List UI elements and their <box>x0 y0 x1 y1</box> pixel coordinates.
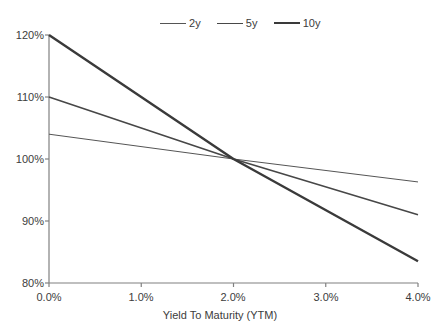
series-line-10y <box>49 35 418 261</box>
plot-area <box>0 0 440 334</box>
x-tick-0: 0.0% <box>19 292 79 303</box>
y-tick-90: 90% <box>4 216 44 227</box>
x-axis-title: Yield To Maturity (YTM) <box>0 309 440 321</box>
x-tick-1: 1.0% <box>111 292 171 303</box>
y-tick-80: 80% <box>4 278 44 289</box>
x-tick-4: 4.0% <box>388 292 440 303</box>
y-tick-100: 100% <box>4 154 44 165</box>
y-tick-110: 110% <box>4 92 44 103</box>
chart-container: 2y 5y 10y 120% 110% 100% 90% 80% 0.0% 1.… <box>0 0 440 334</box>
series-line-5y <box>49 97 418 215</box>
y-tick-120: 120% <box>4 30 44 41</box>
x-tick-2: 2.0% <box>203 292 263 303</box>
x-tick-3: 3.0% <box>296 292 356 303</box>
